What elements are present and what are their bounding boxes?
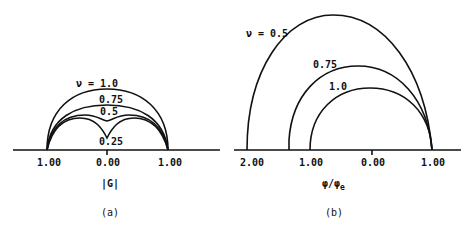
panel-a-label-nu-0-25: 0.25 [99,137,123,147]
panel-a-tick-label-right: 1.00 [158,158,182,168]
panel-a-label-nu-0-75: 0.75 [99,95,123,105]
panel-b-label-nu-0-75: 0.75 [313,60,337,70]
panel-a-x-axis-label: |G| [101,179,119,189]
figure-canvas [0,0,476,232]
panel-b-label-nu-0-5: ν = 0.5 [246,29,288,39]
panel-a-label-nu-0-5: 0.5 [100,107,118,117]
panel-b-caption: (b) [325,208,343,218]
panel-b-x-axis-label-sub: e [340,183,345,192]
panel-b-tick-label-1-00-left: 1.00 [299,158,323,168]
panel-b-label-nu-1-0: 1.0 [329,82,347,92]
panel-b-tick-label-2-00: 2.00 [240,158,264,168]
panel-a-tick-label-center: 0.00 [96,158,120,168]
panel-b-x-axis-label: φ/φe [322,179,345,192]
panel-b-tick-label-0-00: 0.00 [361,158,385,168]
panel-a-tick-label-left: 1.00 [37,158,61,168]
panel-a-caption: (a) [101,208,119,218]
panel-b-curve-nu-1-0 [310,88,432,150]
panel-a-label-nu-1-0: ν = 1.0 [76,79,118,89]
panel-b-x-axis-label-main: φ/φ [322,178,340,189]
panel-b-tick-label-1-00-right: 1.00 [421,158,445,168]
